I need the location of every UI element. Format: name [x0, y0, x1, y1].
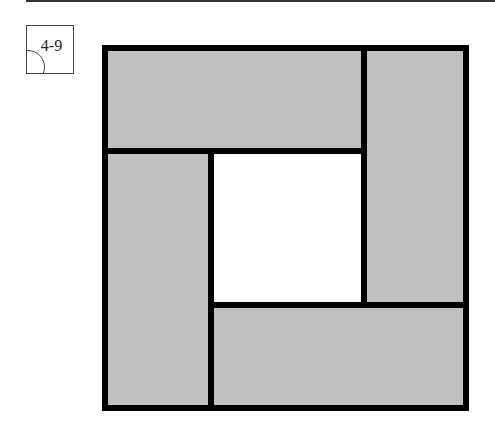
bottom-rectangle [208, 302, 469, 411]
figure-label-box: 4-9 [26, 25, 74, 74]
top-rule [26, 0, 495, 2]
top-rectangle [102, 45, 367, 154]
center-square [214, 154, 361, 302]
square-frame-diagram [102, 45, 469, 411]
figure-label: 4-9 [27, 37, 73, 55]
right-rectangle [361, 45, 469, 308]
left-rectangle [102, 148, 214, 411]
